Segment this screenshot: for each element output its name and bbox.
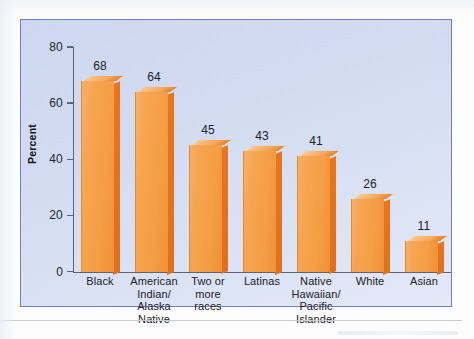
y-axis-tick-label: 20 [21, 208, 63, 222]
category-label-line: races [176, 300, 240, 313]
y-axis-tick-label: 80 [21, 40, 63, 54]
category-label: Asian [392, 275, 456, 288]
bar[interactable] [351, 199, 383, 272]
bar[interactable] [135, 92, 167, 272]
bar-side-face [437, 241, 444, 275]
x-axis-line [73, 272, 451, 273]
bar-side-face [329, 157, 336, 275]
bar-value-label: 43 [232, 129, 292, 143]
bar-value-label: 41 [286, 134, 346, 148]
y-axis-tick-label: 40 [21, 152, 63, 166]
bar[interactable] [243, 151, 275, 272]
bar[interactable] [297, 156, 329, 271]
bar-side-face [221, 145, 228, 274]
bar-front-face [405, 241, 438, 272]
bar-side-face [113, 81, 120, 275]
category-label-line: more [176, 288, 240, 301]
bar-front-face [189, 145, 222, 271]
bar-side-face [383, 199, 390, 275]
bar[interactable] [81, 81, 113, 272]
y-axis-tick-label: 60 [21, 96, 63, 110]
category-label-line: Asian [392, 275, 456, 288]
y-axis-tick [67, 215, 73, 216]
y-axis-tick [67, 271, 73, 272]
bar-side-face [167, 92, 174, 274]
y-axis-tick [67, 159, 73, 160]
bar-value-label: 68 [70, 59, 130, 73]
y-axis-tick [67, 102, 73, 103]
bar-value-label: 26 [340, 177, 400, 191]
y-axis-tick-label: 0 [21, 265, 63, 279]
category-label-line: Hawaiian/ [284, 288, 348, 301]
bar-value-label: 11 [394, 219, 454, 233]
y-axis-line [73, 47, 74, 272]
figure: Percent 806040200 68644543412611 BlackAm… [0, 0, 474, 339]
bar[interactable] [405, 241, 437, 272]
bar-front-face [297, 156, 330, 271]
bar-front-face [81, 81, 114, 272]
bar-value-label: 64 [124, 70, 184, 84]
bar-side-face [275, 151, 282, 274]
bar[interactable] [189, 145, 221, 271]
bar-front-face [351, 199, 384, 272]
page-artifact [338, 331, 458, 335]
bar-front-face [243, 151, 276, 272]
y-axis-tick [67, 46, 73, 47]
bar-value-label: 45 [178, 123, 238, 137]
footer-divider [0, 320, 462, 321]
plot-area: Percent 806040200 68644543412611 BlackAm… [21, 20, 453, 308]
bar-front-face [135, 92, 168, 272]
chart-panel: Percent 806040200 68644543412611 BlackAm… [20, 19, 452, 307]
category-label-line: Pacific Islander [284, 300, 348, 325]
